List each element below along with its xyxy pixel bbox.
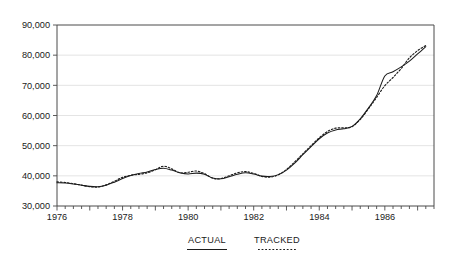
y-tick-label: 80,000	[22, 50, 50, 60]
x-tick-label-1980: 1980	[178, 212, 198, 222]
chart-svg: 90,000 80,000 70,000 60,000 50,000 40,00…	[0, 0, 450, 264]
chart-page: 90,000 80,000 70,000 60,000 50,000 40,00…	[0, 0, 450, 264]
x-tick-label-1978: 1978	[112, 212, 132, 222]
y-tick-label: 60,000	[22, 111, 50, 121]
x-axis-labels: 1976 1978 1980 1982 1984 1986	[47, 212, 395, 222]
y-tick-label: 40,000	[22, 171, 50, 181]
x-tick-label-1982: 1982	[244, 212, 264, 222]
x-tick-label-1984: 1984	[309, 212, 329, 222]
y-axis-labels: 90,000 80,000 70,000 60,000 50,000 40,00…	[22, 20, 50, 211]
legend-label-actual: ACTUAL	[188, 235, 226, 245]
legend-label-tracked: TRACKED	[254, 235, 300, 245]
line-chart-figure: 90,000 80,000 70,000 60,000 50,000 40,00…	[0, 0, 450, 264]
x-tick-label-1986: 1986	[375, 212, 395, 222]
x-axis-ticks	[57, 206, 434, 211]
y-tick-label: 50,000	[22, 141, 50, 151]
x-tick-label-1976: 1976	[47, 212, 67, 222]
y-tick-label: 30,000	[22, 201, 50, 211]
y-tick-label: 70,000	[22, 81, 50, 91]
y-tick-label: 90,000	[22, 20, 50, 30]
chart-legend: ACTUAL TRACKED	[187, 235, 300, 250]
y-axis-ticks	[53, 25, 57, 206]
